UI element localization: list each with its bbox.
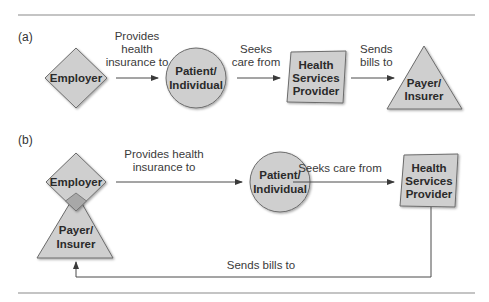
edge-label-provides-insurance-b: Provides health insurance to xyxy=(124,148,203,173)
svg-text:Health: Health xyxy=(298,59,333,71)
circle-shape xyxy=(166,48,226,108)
payer-node-a: Payer/ Insurer xyxy=(387,46,462,109)
svg-text:Health: Health xyxy=(411,162,446,174)
provider-node-a: Health Services Provider xyxy=(287,51,346,103)
svg-text:care from: care from xyxy=(232,56,281,68)
svg-text:Provider: Provider xyxy=(406,188,453,200)
svg-text:Patient/: Patient/ xyxy=(259,169,301,181)
panel-b: (b) Payer/ Insurer Employer Provides hea… xyxy=(18,133,458,277)
svg-text:Payer/: Payer/ xyxy=(59,224,94,236)
provider-node-b: Health Services Provider xyxy=(400,154,458,207)
panel-a: (a) Employer Provides health insurance t… xyxy=(18,30,462,109)
svg-text:Individual: Individual xyxy=(169,79,223,91)
svg-text:Individual: Individual xyxy=(253,183,307,195)
svg-text:Payer/: Payer/ xyxy=(407,77,442,89)
edge-label-provides-insurance-a: Provides health insurance to xyxy=(106,30,169,68)
employer-label: Employer xyxy=(50,72,103,84)
svg-text:Services: Services xyxy=(292,72,339,84)
patient-node-a: Patient/ Individual xyxy=(166,48,226,108)
edge-label-seeks-care-a: Seeks care from xyxy=(232,43,281,68)
svg-text:Insurer: Insurer xyxy=(57,238,97,250)
edge-label-seeks-care-b: Seeks care from xyxy=(298,162,382,174)
svg-text:insurance to: insurance to xyxy=(133,161,196,173)
health-care-relationship-diagram: (a) Employer Provides health insurance t… xyxy=(0,0,489,302)
svg-text:Services: Services xyxy=(405,175,452,187)
svg-text:Provides health: Provides health xyxy=(124,148,203,160)
svg-text:insurance to: insurance to xyxy=(106,56,169,68)
employer-node-a: Employer xyxy=(45,48,107,108)
svg-text:Insurer: Insurer xyxy=(405,90,445,102)
edge-label-sends-bills-a: Sends bills to xyxy=(360,43,393,68)
svg-text:Seeks: Seeks xyxy=(240,43,272,55)
svg-text:Provider: Provider xyxy=(293,85,340,97)
svg-text:bills to: bills to xyxy=(360,56,393,68)
svg-text:Patient/: Patient/ xyxy=(175,65,217,77)
svg-text:Employer: Employer xyxy=(50,176,103,188)
edge-label-sends-bills-b: Sends bills to xyxy=(227,259,295,271)
panel-a-label: (a) xyxy=(18,30,33,44)
svg-text:Provides: Provides xyxy=(115,30,160,42)
svg-text:Sends: Sends xyxy=(360,43,393,55)
employer-node-b: Employer xyxy=(46,153,106,211)
panel-b-label: (b) xyxy=(18,133,33,147)
svg-text:health: health xyxy=(121,43,152,55)
